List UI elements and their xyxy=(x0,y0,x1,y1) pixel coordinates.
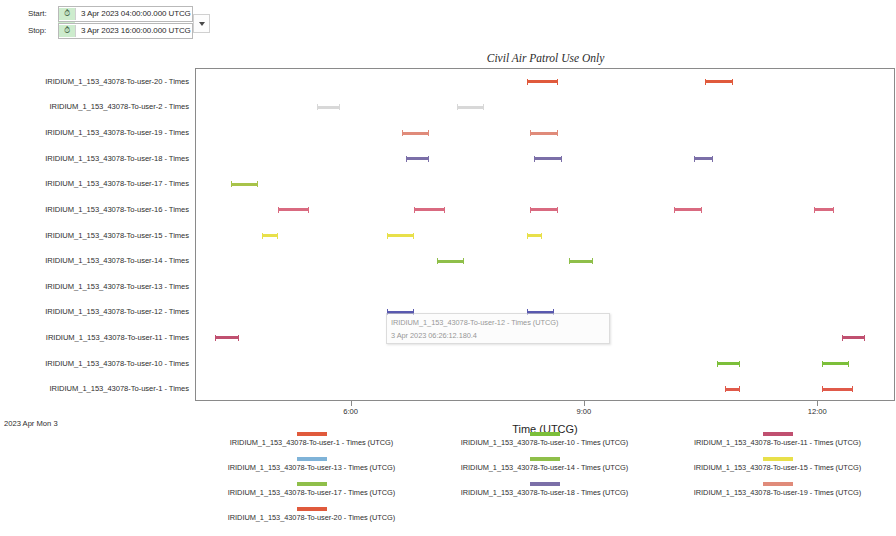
gantt-bar[interactable] xyxy=(278,208,309,211)
y-axis-label: IRIDIUM_1_153_43078-To-user-19 - Times xyxy=(45,128,189,137)
bar-start-cap xyxy=(822,361,823,367)
bar-start-cap xyxy=(717,361,718,367)
start-time-field[interactable]: ⏱ 3 Apr 2023 04:00:00.000 UTCG xyxy=(58,6,193,22)
gantt-bar[interactable] xyxy=(534,157,561,160)
bar-end-cap xyxy=(483,104,484,110)
gantt-bar[interactable] xyxy=(231,183,258,186)
bar-end-cap xyxy=(339,104,340,110)
gantt-bar[interactable] xyxy=(725,388,741,391)
bar-end-cap xyxy=(739,361,740,367)
gantt-bar[interactable] xyxy=(822,388,853,391)
legend-swatch xyxy=(530,432,560,436)
bar-start-cap xyxy=(215,335,216,341)
gantt-bar[interactable] xyxy=(457,106,484,109)
y-axis-label: IRIDIUM_1_153_43078-To-user-12 - Times xyxy=(45,307,189,316)
time-range-controls: Start: ⏱ 3 Apr 2023 04:00:00.000 UTCG St… xyxy=(28,6,193,42)
bar-start-cap xyxy=(694,156,695,162)
gantt-bar[interactable] xyxy=(694,157,713,160)
bar-start-cap xyxy=(402,130,403,136)
gantt-bar[interactable] xyxy=(822,362,849,365)
bar-end-cap xyxy=(739,386,740,392)
clock-icon[interactable]: ⏱ xyxy=(59,25,76,37)
legend-swatch xyxy=(297,432,327,436)
legend-item[interactable]: IRIDIUM_1_153_43078-To-user-18 - Times (… xyxy=(428,482,661,507)
bar-start-cap xyxy=(822,386,823,392)
legend-item[interactable]: IRIDIUM_1_153_43078-To-user-20 - Times (… xyxy=(195,507,428,532)
bar-end-cap xyxy=(833,207,834,213)
y-axis-label: IRIDIUM_1_153_43078-To-user-2 - Times xyxy=(49,102,189,111)
bar-start-cap xyxy=(317,104,318,110)
bar-end-cap xyxy=(848,361,849,367)
y-axis-label: IRIDIUM_1_153_43078-To-user-16 - Times xyxy=(45,204,189,213)
legend-label: IRIDIUM_1_153_43078-To-user-1 - Times (U… xyxy=(230,438,393,447)
gantt-bar[interactable] xyxy=(527,234,543,237)
y-axis-label: IRIDIUM_1_153_43078-To-user-15 - Times xyxy=(45,230,189,239)
y-axis-label: IRIDIUM_1_153_43078-To-user-13 - Times xyxy=(45,281,189,290)
bar-start-cap xyxy=(705,79,706,85)
bar-start-cap xyxy=(231,181,232,187)
legend-item[interactable]: IRIDIUM_1_153_43078-To-user-17 - Times (… xyxy=(195,482,428,507)
y-axis-label: IRIDIUM_1_153_43078-To-user-11 - Times xyxy=(46,332,189,341)
stop-time-field[interactable]: ⏱ 3 Apr 2023 16:00:00.000 UTCG xyxy=(58,23,193,39)
x-axis-tick xyxy=(817,401,818,406)
y-axis-label: IRIDIUM_1_153_43078-To-user-1 - Times xyxy=(49,384,189,393)
gantt-bar[interactable] xyxy=(414,208,445,211)
gantt-bar[interactable] xyxy=(317,106,340,109)
gantt-bar[interactable] xyxy=(569,260,592,263)
gantt-plot-area[interactable] xyxy=(195,68,895,401)
legend-column: IRIDIUM_1_153_43078-To-user-10 - Times (… xyxy=(428,432,661,507)
gantt-bar[interactable] xyxy=(406,157,429,160)
bar-end-cap xyxy=(463,258,464,264)
legend-label: IRIDIUM_1_153_43078-To-user-17 - Times (… xyxy=(228,488,395,497)
bar-start-cap xyxy=(725,386,726,392)
bar-start-cap xyxy=(674,207,675,213)
gantt-bar[interactable] xyxy=(262,234,278,237)
legend-label: IRIDIUM_1_153_43078-To-user-18 - Times (… xyxy=(461,488,628,497)
gantt-bar[interactable] xyxy=(705,80,732,83)
legend-label: IRIDIUM_1_153_43078-To-user-19 - Times (… xyxy=(694,488,861,497)
clock-icon[interactable]: ⏱ xyxy=(59,8,76,20)
legend-label: IRIDIUM_1_153_43078-To-user-10 - Times (… xyxy=(461,438,628,447)
gantt-bar[interactable] xyxy=(842,336,865,339)
y-axis-label: IRIDIUM_1_153_43078-To-user-14 - Times xyxy=(45,256,189,265)
start-time-value: 3 Apr 2023 04:00:00.000 UTCG xyxy=(76,9,191,18)
legend: IRIDIUM_1_153_43078-To-user-1 - Times (U… xyxy=(195,432,895,536)
gantt-bar[interactable] xyxy=(437,260,464,263)
gantt-bar[interactable] xyxy=(402,132,429,135)
gantt-bar[interactable] xyxy=(814,208,833,211)
gantt-bar[interactable] xyxy=(387,234,414,237)
bar-start-cap xyxy=(530,130,531,136)
legend-item[interactable]: IRIDIUM_1_153_43078-To-user-10 - Times (… xyxy=(428,432,661,457)
bar-end-cap xyxy=(413,233,414,239)
legend-item[interactable]: IRIDIUM_1_153_43078-To-user-11 - Times (… xyxy=(661,432,894,457)
legend-item[interactable]: IRIDIUM_1_153_43078-To-user-13 - Times (… xyxy=(195,457,428,482)
bar-end-cap xyxy=(238,335,239,341)
bar-end-cap xyxy=(308,207,309,213)
chevron-down-icon[interactable] xyxy=(193,14,210,33)
gantt-bar[interactable] xyxy=(215,336,238,339)
stop-time-value: 3 Apr 2023 16:00:00.000 UTCG xyxy=(76,26,191,35)
legend-swatch xyxy=(763,432,793,436)
legend-swatch xyxy=(297,507,327,511)
gantt-bar[interactable] xyxy=(527,80,558,83)
caret-shape xyxy=(199,22,205,26)
bar-start-cap xyxy=(527,233,528,239)
legend-swatch xyxy=(763,457,793,461)
bar-start-cap xyxy=(534,156,535,162)
legend-swatch xyxy=(297,482,327,486)
legend-item[interactable]: IRIDIUM_1_153_43078-To-user-1 - Times (U… xyxy=(195,432,428,457)
bar-start-cap xyxy=(527,79,528,85)
gantt-bar[interactable] xyxy=(674,208,701,211)
bar-end-cap xyxy=(852,386,853,392)
gantt-bar[interactable] xyxy=(530,132,557,135)
legend-item[interactable]: IRIDIUM_1_153_43078-To-user-14 - Times (… xyxy=(428,457,661,482)
y-axis-label: IRIDIUM_1_153_43078-To-user-17 - Times xyxy=(45,179,189,188)
gantt-bar[interactable] xyxy=(530,208,557,211)
bar-end-cap xyxy=(732,79,733,85)
bar-end-cap xyxy=(557,207,558,213)
bar-start-cap xyxy=(437,258,438,264)
legend-item[interactable]: IRIDIUM_1_153_43078-To-user-19 - Times (… xyxy=(661,482,894,507)
tooltip-value: 3 Apr 2023 06:26:12.180.4 xyxy=(391,329,605,342)
gantt-bar[interactable] xyxy=(717,362,740,365)
legend-item[interactable]: IRIDIUM_1_153_43078-To-user-15 - Times (… xyxy=(661,457,894,482)
